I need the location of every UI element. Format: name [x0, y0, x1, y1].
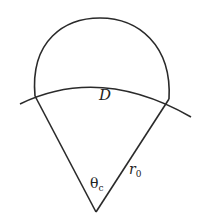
angle-label: θc	[90, 176, 103, 193]
radius-label: r0	[129, 162, 141, 179]
angle-subscript: c	[98, 183, 103, 193]
right-radius-line	[96, 99, 169, 212]
radius-subscript: 0	[136, 169, 142, 179]
radius-symbol: r	[129, 161, 136, 177]
diagram-canvas: D θc r0	[0, 0, 202, 223]
region-label-text: D	[99, 86, 111, 104]
region-label-d: D	[99, 88, 111, 103]
left-radius-line	[35, 96, 96, 212]
